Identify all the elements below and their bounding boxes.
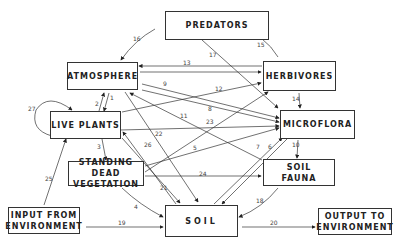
flow-label-2: 2 bbox=[95, 100, 99, 107]
label-output-1: OUTPUT TO bbox=[325, 211, 386, 222]
box-atmosphere: ATMOSPHERE bbox=[67, 62, 138, 90]
flow-label-21: 21 bbox=[160, 184, 168, 191]
label-predators: PREDATORS bbox=[186, 20, 249, 31]
label-herbivores: HERBIVORES bbox=[266, 71, 334, 82]
flow-label-8: 8 bbox=[208, 105, 212, 112]
flow-label-9: 9 bbox=[163, 80, 167, 87]
flow-label-11: 11 bbox=[180, 112, 188, 119]
flow-label-22: 22 bbox=[155, 130, 163, 137]
arrow-sdv-herb bbox=[145, 92, 268, 172]
arrow-23 bbox=[120, 126, 279, 130]
flow-label-23: 23 bbox=[206, 118, 214, 125]
box-soil: SOIL bbox=[165, 205, 238, 237]
label-vegetation: VEGETATION bbox=[73, 179, 139, 190]
flow-label-5: 5 bbox=[193, 144, 197, 151]
flow-label-18: 18 bbox=[256, 197, 264, 204]
label-input-1: INPUT FROM bbox=[11, 210, 78, 221]
flow-label-15: 15 bbox=[257, 41, 265, 48]
flow-label-19: 19 bbox=[118, 219, 126, 226]
box-live-plants: LIVE PLANTS bbox=[50, 111, 121, 139]
arrow-4 bbox=[122, 188, 163, 217]
flow-label-27: 27 bbox=[28, 105, 36, 112]
arrow-25 bbox=[44, 139, 66, 205]
flow-label-13: 13 bbox=[183, 59, 191, 66]
label-atmosphere: ATMOSPHERE bbox=[67, 71, 138, 82]
box-standing-dead-vegetation: STANDING DEAD VEGETATION bbox=[68, 161, 144, 186]
box-predators: PREDATORS bbox=[165, 11, 269, 40]
flow-label-16: 16 bbox=[133, 35, 141, 42]
flow-label-17: 17 bbox=[209, 51, 217, 58]
flow-label-20: 20 bbox=[270, 219, 278, 226]
arrow-9 bbox=[142, 84, 279, 118]
flow-label-7: 7 bbox=[256, 143, 260, 150]
flow-label-26: 26 bbox=[144, 141, 152, 148]
box-herbivores: HERBIVORES bbox=[263, 61, 336, 91]
label-soil: SOIL bbox=[185, 216, 218, 227]
flow-label-24: 24 bbox=[199, 170, 207, 177]
label-microflora: MICROFLORA bbox=[283, 119, 352, 130]
label-input-2: ENVIRONMENT bbox=[5, 221, 83, 232]
label-output-2: ENVIRONMENT bbox=[316, 222, 394, 233]
flow-label-6: 6 bbox=[268, 143, 272, 150]
arrow-2 bbox=[99, 93, 104, 111]
ecosystem-flow-diagram: 16 15 17 13 9 12 8 11 23 2 1 27 3 22 26 … bbox=[0, 0, 401, 242]
arrow-16 bbox=[121, 29, 155, 60]
flow-label-3: 3 bbox=[97, 143, 101, 150]
label-standing-dead: STANDING DEAD bbox=[69, 157, 143, 179]
arrow-12 bbox=[122, 83, 261, 112]
label-soil-fauna-2: FAUNA bbox=[282, 173, 317, 184]
box-input-from-environment: INPUT FROM ENVIRONMENT bbox=[8, 207, 80, 234]
flow-label-1: 1 bbox=[110, 94, 114, 101]
flow-label-10: 10 bbox=[292, 141, 300, 148]
flow-label-14: 14 bbox=[292, 95, 300, 102]
label-soil-fauna-1: SOIL bbox=[287, 162, 312, 173]
box-microflora: MICROFLORA bbox=[280, 110, 355, 139]
flow-label-25: 25 bbox=[45, 175, 53, 182]
flow-label-4: 4 bbox=[134, 203, 138, 210]
box-output-to-environment: OUTPUT TO ENVIRONMENT bbox=[318, 208, 392, 235]
arrow-1 bbox=[104, 93, 109, 111]
label-live-plants: LIVE PLANTS bbox=[51, 120, 120, 131]
flow-label-12: 12 bbox=[215, 85, 223, 92]
box-soil-fauna: SOIL FAUNA bbox=[263, 159, 335, 186]
